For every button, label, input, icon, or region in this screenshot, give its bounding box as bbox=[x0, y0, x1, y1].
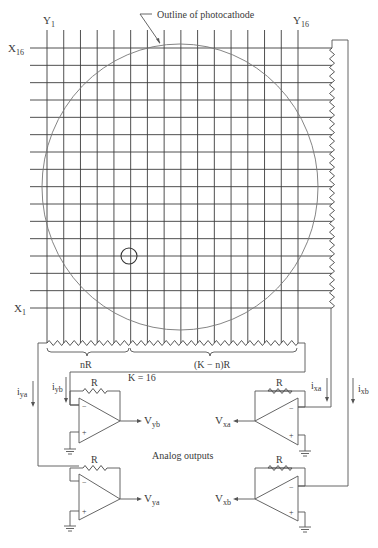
inverting-input-label: − bbox=[82, 478, 87, 487]
x1-label: X1 bbox=[14, 302, 26, 317]
noninverting-input-label: + bbox=[82, 507, 87, 516]
inverting-input-label: − bbox=[289, 483, 294, 492]
ixb-label: ixb bbox=[358, 383, 369, 396]
k-minus-n-brace bbox=[130, 348, 297, 356]
y-left-wire bbox=[38, 343, 79, 466]
opamp-xa: R−+Vxa bbox=[215, 377, 311, 456]
nR-brace bbox=[47, 348, 129, 356]
ground-icon bbox=[64, 526, 76, 531]
photocathode-readout-diagram: Outline of photocathode Y1 Y16 X16 X1 nR… bbox=[0, 0, 378, 548]
ground-icon bbox=[299, 451, 311, 456]
feedback-resistor-label: R bbox=[91, 454, 98, 465]
ground-icon bbox=[64, 449, 76, 454]
ixa-arrow-icon bbox=[325, 378, 329, 402]
nR-label: nR bbox=[80, 359, 92, 370]
feedback-resistor-label: R bbox=[276, 454, 283, 465]
inverting-input-label: − bbox=[82, 402, 87, 411]
x16-label: X16 bbox=[8, 42, 24, 57]
x-resistor-chain bbox=[330, 48, 335, 308]
ground-icon bbox=[299, 527, 311, 532]
output-voltage-label: Vxb bbox=[215, 492, 231, 507]
analog-outputs-label: Analog outputs bbox=[152, 450, 213, 461]
iya-label: iya bbox=[17, 386, 28, 399]
ixa-label: ixa bbox=[311, 380, 322, 393]
feedback-resistor-label: R bbox=[91, 377, 98, 388]
iyb-label: iyb bbox=[52, 381, 63, 394]
output-voltage-label: Vyb bbox=[144, 414, 160, 429]
inverting-input-label: − bbox=[289, 404, 294, 413]
opamp-yb: R−+Vyb bbox=[64, 377, 160, 454]
noninverting-input-label: + bbox=[82, 428, 87, 437]
leader-arrowhead-icon bbox=[156, 38, 160, 44]
k-label: K = 16 bbox=[128, 372, 156, 383]
x-top-return-wire bbox=[298, 40, 348, 486]
ixb-arrow-icon bbox=[351, 378, 355, 404]
iyb-arrow-icon bbox=[64, 377, 68, 403]
noninverting-input-label: + bbox=[289, 508, 294, 517]
feedback-resistor-icon bbox=[83, 466, 107, 471]
noninverting-input-label: + bbox=[289, 431, 294, 440]
y-resistor-chain bbox=[47, 341, 298, 346]
k-minus-n-label: (K − n)R bbox=[194, 359, 231, 371]
iya-arrow-icon bbox=[31, 381, 35, 407]
y1-label: Y1 bbox=[43, 14, 55, 29]
output-voltage-label: Vxa bbox=[215, 414, 231, 429]
photocathode-label: Outline of photocathode bbox=[157, 9, 255, 20]
feedback-resistor-label: R bbox=[276, 377, 283, 388]
opamp-xb: R−+Vxb bbox=[215, 454, 311, 532]
y16-label: Y16 bbox=[293, 14, 309, 29]
feedback-resistor-icon bbox=[83, 389, 107, 394]
output-voltage-label: Vya bbox=[144, 492, 160, 507]
